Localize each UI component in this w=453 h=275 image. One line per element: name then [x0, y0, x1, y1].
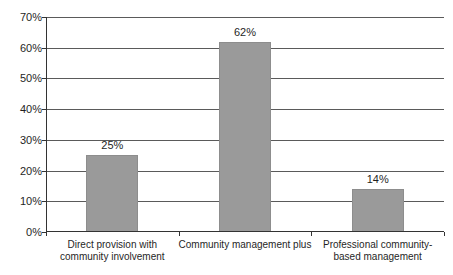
y-tick-label: 40% [2, 103, 42, 116]
bar-chart: 0%10%20%30%40%50%60%70% 25%62%14% Direct… [0, 0, 453, 275]
bar [219, 42, 271, 232]
x-axis-tick [444, 232, 445, 236]
gridline [46, 17, 444, 18]
category-label-line: based management [311, 251, 444, 263]
category-label: Professional community-based management [311, 239, 444, 263]
y-tick-label: 60% [2, 42, 42, 55]
x-axis-labels: Direct provision withcommunity involveme… [46, 239, 444, 263]
category-label: Community management plus [179, 239, 312, 263]
bar [352, 189, 404, 232]
bar [86, 155, 138, 232]
y-tick-label: 0% [2, 226, 42, 239]
category-label-line: Direct provision with [46, 239, 179, 251]
category-label-line: community involvement [46, 251, 179, 263]
y-tick-label: 10% [2, 195, 42, 208]
category-label-line: Professional community- [311, 239, 444, 251]
x-axis-tick [46, 232, 47, 236]
y-tick-label: 50% [2, 72, 42, 85]
x-axis-tick [179, 232, 180, 236]
bar-value-label: 25% [82, 139, 142, 152]
bar-value-label: 14% [348, 173, 408, 186]
y-tick-label: 30% [2, 134, 42, 147]
plot-area: 25%62%14% [46, 17, 444, 232]
x-axis-tick [311, 232, 312, 236]
y-tick-label: 70% [2, 11, 42, 24]
category-label-line: Community management plus [179, 239, 312, 251]
y-tick-label: 20% [2, 165, 42, 178]
category-label: Direct provision withcommunity involveme… [46, 239, 179, 263]
bar-value-label: 62% [215, 26, 275, 39]
x-axis-line [46, 231, 444, 232]
y-axis-line [46, 17, 47, 232]
